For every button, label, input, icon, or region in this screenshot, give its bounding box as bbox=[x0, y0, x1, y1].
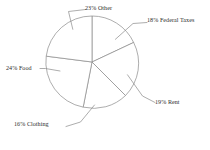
pie-label-food: 24% Food bbox=[6, 65, 32, 71]
pie-chart-figure: 23% Other 18% Federal Taxes 19% Rent 16%… bbox=[0, 0, 210, 150]
pie-label-rent: 19% Rent bbox=[155, 99, 180, 105]
pie-label-federal-taxes: 18% Federal Taxes bbox=[147, 17, 194, 23]
pie-slices bbox=[46, 16, 139, 108]
pie-label-clothing: 16% Clothing bbox=[14, 121, 49, 127]
pie-label-other: 23% Other bbox=[85, 5, 112, 11]
pie-slice-other bbox=[46, 16, 92, 62]
